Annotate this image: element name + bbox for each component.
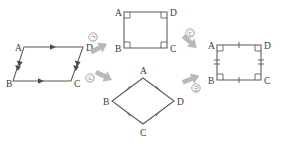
square-right-angle-c (255, 74, 261, 80)
parallelogram-vertex-a: A (15, 43, 22, 53)
right-angle-mark-c (161, 42, 167, 48)
arrow-marker-1: ㉠ (90, 34, 97, 42)
square-vertex-d: D (264, 41, 271, 51)
parallel-arrow-bc (38, 78, 44, 84)
rhombus-vertex-c: C (140, 128, 146, 138)
square-vertex-c: C (264, 76, 270, 86)
square-vertex-a: A (208, 41, 215, 51)
parallelogram-outline (13, 47, 83, 81)
right-angle-mark-d (161, 12, 167, 18)
rectangle-vertex-d: D (170, 8, 177, 18)
parallelogram-vertex-c: C (74, 79, 80, 89)
shape-rhombus: A D C B (103, 66, 184, 138)
arrow-marker-2: ㉡ (87, 75, 94, 83)
rectangle-outline (124, 12, 167, 48)
shape-square: A D C B (208, 41, 271, 86)
right-angle-mark-a (124, 12, 130, 18)
rectangle-vertex-c: C (170, 44, 176, 54)
parallel-arrow-ab-2 (15, 65, 21, 71)
arrow-marker-3: ㉢ (187, 30, 194, 38)
rhombus-vertex-b: B (103, 97, 109, 107)
rhombus-vertex-d: D (177, 97, 184, 107)
square-right-angle-a (217, 45, 223, 51)
arrow-rhombus-to-square: ㉣ (181, 70, 202, 92)
square-vertex-b: B (208, 76, 214, 86)
shape-parallelogram: A D C B (6, 43, 93, 89)
square-outline (217, 45, 261, 80)
arrow-rectangle-to-square: ㉢ (180, 29, 201, 52)
square-right-angle-d (255, 45, 261, 51)
rectangle-vertex-a: A (115, 8, 122, 18)
right-angle-mark-b (124, 42, 130, 48)
parallel-arrow-dc-2 (73, 65, 79, 71)
block-arrow-shape (93, 67, 114, 85)
parallel-arrow-ad (50, 44, 56, 50)
parallelogram-vertex-b: B (6, 79, 12, 89)
rhombus-outline (112, 78, 174, 124)
rhombus-vertex-a: A (140, 66, 147, 76)
geometry-diagram: A D C B A D C B A D C B (0, 0, 282, 144)
rectangle-vertex-b: B (115, 44, 121, 54)
arrow-parallelogram-to-rhombus: ㉡ (86, 67, 115, 85)
shape-rectangle: A D C B (115, 8, 177, 54)
square-right-angle-b (217, 74, 223, 80)
diagram-canvas: A D C B A D C B A D C B (0, 0, 282, 144)
parallel-arrow-dc-1 (75, 61, 81, 67)
arrow-marker-4: ㉣ (193, 85, 200, 93)
